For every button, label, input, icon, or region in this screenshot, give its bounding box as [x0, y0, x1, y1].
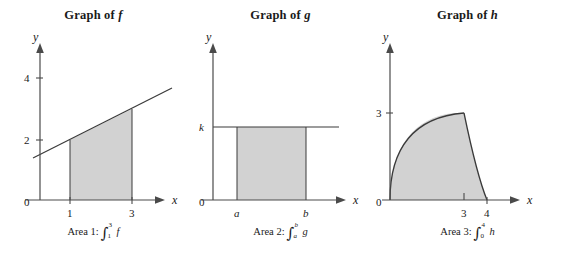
panel-title-function: f	[118, 8, 122, 22]
integral-upper-2: b	[294, 221, 298, 229]
plot-area-h: y x 3 0 3 4	[374, 30, 561, 220]
origin-label-h: 0	[376, 196, 382, 208]
plot-svg-h: y x 3 0 3 4	[374, 30, 561, 220]
x-tick-label-4-h: 4	[484, 207, 490, 219]
integral-area-figure: Graph of f	[0, 0, 561, 254]
shaded-region-f	[70, 109, 132, 200]
y-tick-label-k-g: k	[199, 121, 205, 133]
shaded-region-g	[237, 127, 306, 200]
x-tick-label-a-g: a	[234, 207, 240, 219]
origin-label-g: 0	[199, 196, 205, 208]
integral-limits-3: 40	[481, 224, 488, 238]
panel-graph-h: Graph of h y	[374, 0, 561, 254]
y-tick-label-2-f: 2	[24, 134, 30, 146]
x-tick-label-3-f: 3	[129, 207, 135, 219]
y-tick-label-3-h: 3	[376, 107, 382, 119]
panel-graph-g: Graph of g y x	[187, 0, 374, 254]
panel-graph-f: Graph of f	[0, 0, 187, 254]
y-axis-label-g: y	[205, 30, 212, 44]
integral-function-2: g	[302, 226, 307, 237]
shaded-region-h	[390, 113, 487, 200]
caption-lead-3: Area 3:	[440, 226, 471, 237]
panel-title-prefix: Graph of	[437, 8, 491, 22]
panel-title-prefix: Graph of	[250, 8, 304, 22]
x-axis-arrow-h	[510, 196, 520, 204]
y-axis-arrow-g	[209, 43, 217, 53]
integral-function-1: f	[117, 226, 120, 237]
y-tick-label-4-f: 4	[24, 72, 30, 84]
panel-title-function: g	[304, 8, 310, 22]
panel-title-g: Graph of g	[187, 8, 374, 23]
plot-area-f: y x 4 2 0 1 3	[0, 30, 187, 220]
integral-upper-1: 3	[109, 221, 113, 229]
integral-upper-3: 4	[481, 221, 485, 229]
x-axis-arrow-f	[155, 196, 165, 204]
plot-area-g: y x k 0 a b	[187, 30, 374, 220]
integral-lower-2: a	[293, 232, 297, 240]
caption-area-1: Area 1:∫31f	[0, 224, 187, 241]
panel-title-f: Graph of f	[0, 8, 187, 23]
x-axis-arrow-g	[336, 196, 346, 204]
y-axis-label-f: y	[32, 30, 39, 44]
caption-lead-1: Area 1:	[68, 226, 99, 237]
y-axis-label-h: y	[382, 30, 389, 44]
caption-area-3: Area 3:∫40h	[374, 224, 561, 241]
integral-limits-1: 31	[109, 224, 116, 238]
origin-label-f: 0	[24, 196, 30, 208]
integral-lower-1: 1	[108, 232, 112, 240]
x-axis-label-g: x	[352, 193, 359, 207]
integral-lower-3: 0	[480, 232, 484, 240]
caption-lead-2: Area 2:	[253, 226, 284, 237]
y-axis-arrow-h	[386, 43, 394, 53]
panel-title-h: Graph of h	[374, 8, 561, 23]
panel-title-prefix: Graph of	[64, 8, 118, 22]
x-axis-label-h: x	[526, 193, 533, 207]
x-tick-label-1-f: 1	[67, 207, 73, 219]
plot-svg-g: y x k 0 a b	[187, 30, 374, 220]
x-tick-label-b-g: b	[303, 207, 309, 219]
integral-limits-2: ba	[294, 224, 301, 238]
x-axis-label-f: x	[171, 193, 178, 207]
caption-area-2: Area 2:∫bag	[187, 224, 374, 241]
panel-title-function: h	[491, 8, 498, 22]
plot-svg-f: y x 4 2 0 1 3	[0, 30, 187, 220]
y-axis-arrow-f	[36, 43, 44, 53]
integral-function-3: h	[489, 226, 494, 237]
x-tick-label-3-h: 3	[461, 207, 467, 219]
